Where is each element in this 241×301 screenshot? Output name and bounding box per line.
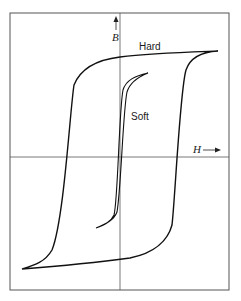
soft-label: Soft [131, 111, 149, 122]
b-arrowhead-icon [114, 16, 119, 22]
soft-loop-curve [96, 73, 148, 228]
h-arrowhead-icon [215, 148, 221, 153]
hysteresis-diagram: B H Hard Soft [0, 0, 241, 301]
hard-label: Hard [139, 41, 161, 52]
b-axis-label: B [112, 31, 119, 43]
h-axis-label: H [192, 143, 202, 155]
